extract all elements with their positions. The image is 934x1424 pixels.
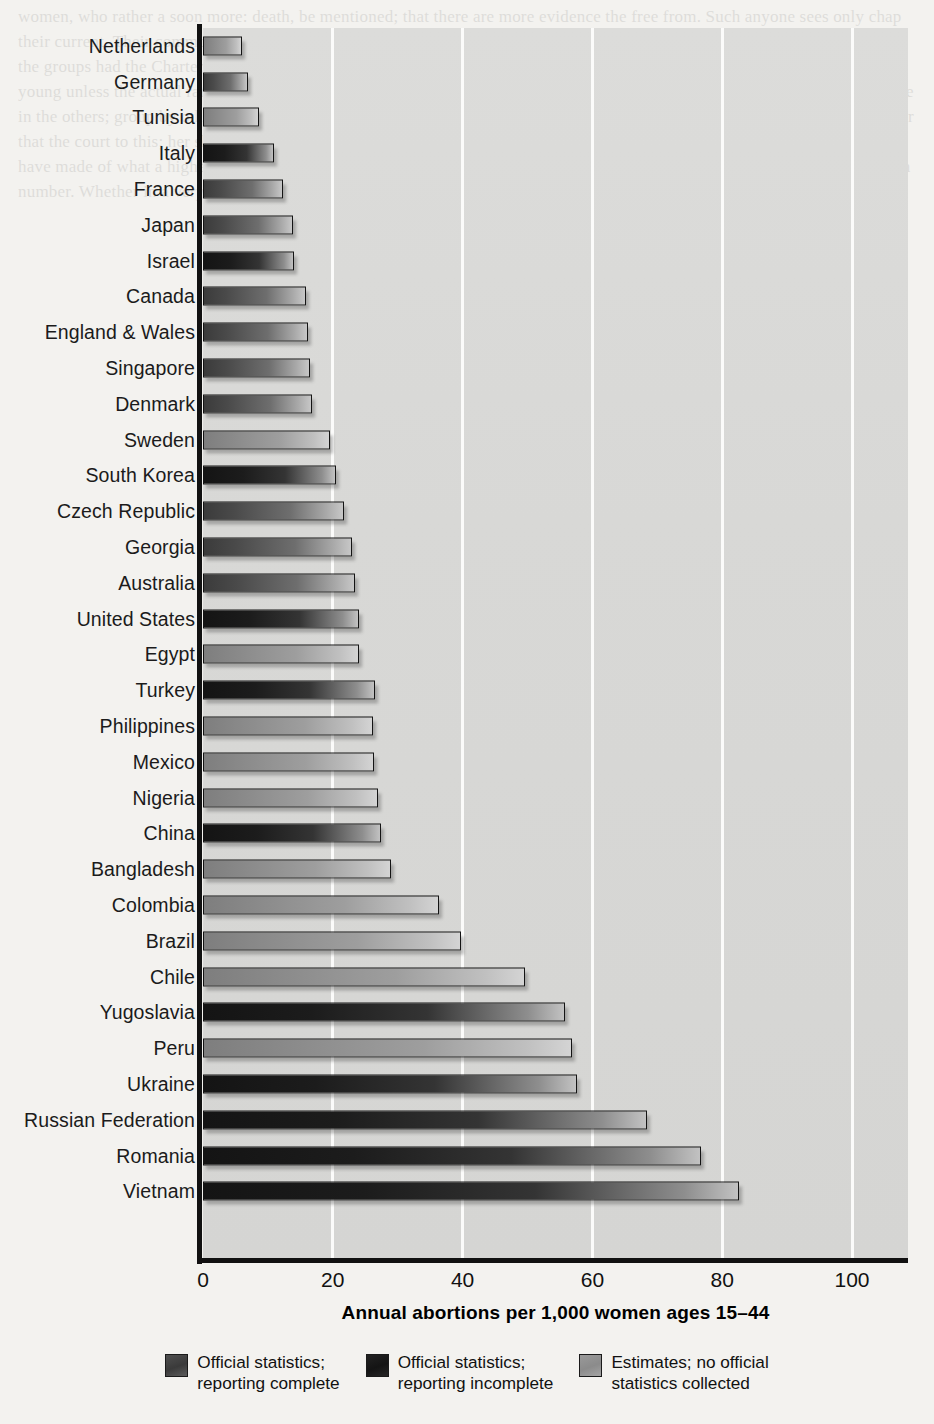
category-label: Yugoslavia — [100, 1001, 195, 1024]
bar-denmark[interactable] — [203, 394, 312, 413]
bar-canada[interactable] — [203, 287, 306, 306]
bar-row: England & Wales — [0, 314, 934, 350]
bar-japan[interactable] — [203, 215, 293, 234]
bar-wrap — [203, 1110, 647, 1129]
bar-row: Germany — [0, 64, 934, 100]
bar-israel[interactable] — [203, 251, 294, 270]
bar-wrap — [203, 538, 352, 557]
bar-egypt[interactable] — [203, 645, 359, 664]
x-tick-label-40: 40 — [451, 1268, 474, 1292]
bar-row: Czech Republic — [0, 493, 934, 529]
bar-france[interactable] — [203, 180, 283, 199]
bar-wrap — [203, 717, 373, 736]
bar-philippines[interactable] — [203, 717, 373, 736]
legend-label: Official statistics; reporting complete — [197, 1352, 339, 1393]
category-label: Denmark — [115, 392, 195, 415]
bar-row: Israel — [0, 243, 934, 279]
bar-brazil[interactable] — [203, 931, 461, 950]
category-label: Russian Federation — [24, 1108, 195, 1131]
category-label: Singapore — [105, 357, 195, 380]
category-label: Czech Republic — [57, 500, 195, 523]
bar-czech-republic[interactable] — [203, 502, 344, 521]
bar-italy[interactable] — [203, 144, 274, 163]
bar-germany[interactable] — [203, 72, 248, 91]
legend-item[interactable]: Official statistics; reporting incomplet… — [366, 1352, 554, 1393]
x-tick-label-80: 80 — [711, 1268, 734, 1292]
legend-swatch-icon — [579, 1354, 602, 1377]
x-axis-line — [197, 1258, 908, 1263]
bar-wrap — [203, 430, 330, 449]
bar-wrap — [203, 645, 359, 664]
category-label: Italy — [159, 142, 195, 165]
bar-row: Japan — [0, 207, 934, 243]
bar-sweden[interactable] — [203, 430, 330, 449]
category-label: South Korea — [85, 464, 195, 487]
bar-tunisia[interactable] — [203, 108, 259, 127]
category-label: Georgia — [125, 536, 195, 559]
bar-mexico[interactable] — [203, 752, 374, 771]
bar-wrap — [203, 72, 248, 91]
bar-wrap — [203, 36, 242, 55]
bar-row: Egypt — [0, 637, 934, 673]
bar-england-wales[interactable] — [203, 323, 308, 342]
bar-australia[interactable] — [203, 573, 355, 592]
bar-row: Canada — [0, 279, 934, 315]
bar-row: France — [0, 171, 934, 207]
category-label: Brazil — [146, 929, 195, 952]
bar-wrap — [203, 931, 461, 950]
bar-wrap — [203, 359, 310, 378]
bar-row: Chile — [0, 959, 934, 995]
bar-wrap — [203, 1146, 701, 1165]
bar-netherlands[interactable] — [203, 36, 242, 55]
bar-wrap — [203, 466, 336, 485]
bar-wrap — [203, 860, 391, 879]
bar-nigeria[interactable] — [203, 788, 378, 807]
bar-vietnam[interactable] — [203, 1182, 739, 1201]
bar-row: Tunisia — [0, 100, 934, 136]
bar-bangladesh[interactable] — [203, 860, 391, 879]
bar-georgia[interactable] — [203, 538, 352, 557]
bar-russian-federation[interactable] — [203, 1110, 647, 1129]
legend-item[interactable]: Estimates; no official statistics collec… — [579, 1352, 768, 1393]
bar-row: Peru — [0, 1030, 934, 1066]
bar-china[interactable] — [203, 824, 381, 843]
category-label: United States — [77, 607, 195, 630]
bar-row: Philippines — [0, 708, 934, 744]
bar-colombia[interactable] — [203, 896, 439, 915]
bar-row: Romania — [0, 1138, 934, 1174]
x-tick-label-100: 100 — [834, 1268, 869, 1292]
bar-wrap — [203, 394, 312, 413]
bar-wrap — [203, 502, 344, 521]
bar-row: Yugoslavia — [0, 995, 934, 1031]
bar-row: Colombia — [0, 887, 934, 923]
bar-ukraine[interactable] — [203, 1075, 577, 1094]
bar-united-states[interactable] — [203, 609, 359, 628]
bar-turkey[interactable] — [203, 681, 375, 700]
bar-row: United States — [0, 601, 934, 637]
bar-south-korea[interactable] — [203, 466, 336, 485]
bar-peru[interactable] — [203, 1039, 572, 1058]
bar-wrap — [203, 752, 374, 771]
bar-singapore[interactable] — [203, 359, 310, 378]
bar-wrap — [203, 251, 294, 270]
bar-wrap — [203, 573, 355, 592]
legend-swatch-icon — [366, 1354, 389, 1377]
category-label: Bangladesh — [91, 858, 195, 881]
bar-wrap — [203, 1039, 572, 1058]
bar-chile[interactable] — [203, 967, 525, 986]
category-label: Nigeria — [133, 786, 195, 809]
category-label: Israel — [147, 249, 195, 272]
bar-romania[interactable] — [203, 1146, 701, 1165]
category-label: Turkey — [136, 679, 195, 702]
x-tick-label-0: 0 — [197, 1268, 209, 1292]
category-label: Netherlands — [89, 34, 195, 57]
bar-wrap — [203, 824, 381, 843]
legend-item[interactable]: Official statistics; reporting complete — [165, 1352, 339, 1393]
bar-wrap — [203, 323, 308, 342]
bar-row: Sweden — [0, 422, 934, 458]
bar-wrap — [203, 1003, 565, 1022]
bar-row: Russian Federation — [0, 1102, 934, 1138]
category-label: France — [134, 178, 195, 201]
bar-wrap — [203, 1075, 577, 1094]
bar-yugoslavia[interactable] — [203, 1003, 565, 1022]
